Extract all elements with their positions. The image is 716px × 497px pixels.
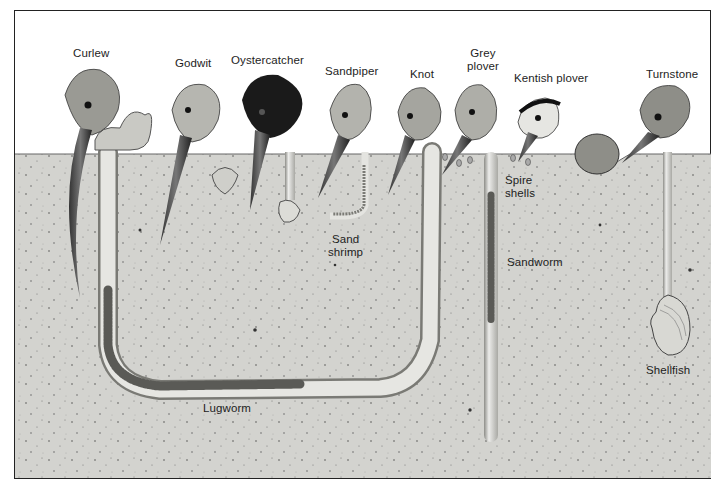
label-spire-shells-line1: Spire (505, 174, 535, 187)
label-kentish-plover: Kentish plover (514, 72, 588, 85)
label-shellfish: Shellfish (646, 364, 690, 377)
label-spire-shells: Spire shells (505, 174, 535, 200)
stone (575, 134, 619, 174)
label-sand-shrimp: Sand shrimp (328, 233, 363, 259)
sandworm-burrow (484, 152, 498, 442)
shellfish-burrow (663, 152, 672, 302)
label-sandworm: Sandworm (507, 256, 563, 269)
label-godwit: Godwit (175, 57, 211, 70)
label-knot: Knot (410, 68, 434, 81)
label-grey-plover: Grey plover (467, 47, 499, 73)
label-lugworm: Lugworm (203, 402, 251, 415)
bird-turnstone (622, 86, 690, 164)
label-spire-shells-line2: shells (505, 187, 535, 200)
label-grey-plover-line1: Grey (467, 47, 499, 60)
label-sandpiper: Sandpiper (325, 65, 378, 78)
bird-kentish-plover (518, 98, 560, 162)
label-sand-shrimp-line2: shrimp (328, 246, 363, 259)
label-turnstone: Turnstone (646, 68, 698, 81)
label-grey-plover-line2: plover (467, 60, 499, 73)
label-sand-shrimp-line1: Sand (328, 233, 363, 246)
label-oystercatcher: Oystercatcher (231, 54, 304, 67)
label-curlew: Curlew (73, 47, 109, 60)
